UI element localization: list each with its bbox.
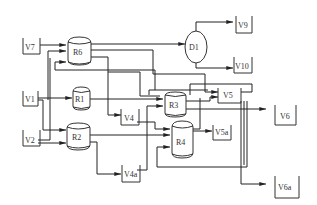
- vessel-v5: V5: [218, 88, 241, 103]
- label-v10: V10: [235, 62, 249, 71]
- reactor-r4: R4: [172, 121, 193, 158]
- label-v9: V9: [238, 21, 248, 30]
- line-v4-r4: [137, 122, 170, 129]
- line-r6-v4: [91, 57, 121, 115]
- line-d1-v10: [196, 63, 233, 68]
- vessel-v7: V7: [23, 38, 40, 54]
- label-v4a: V4a: [124, 170, 138, 179]
- line-r4-v5: [193, 98, 200, 129]
- reactor-r3: R3: [165, 92, 186, 117]
- vessel-v2: V2: [23, 130, 40, 146]
- process-flow-diagram: V7 V1 V2 V4 V4a V5 V5a V6: [0, 0, 317, 205]
- line-v5-v6a: [241, 101, 266, 184]
- label-r3: R3: [169, 101, 178, 110]
- vessel-v1: V1: [23, 91, 38, 106]
- reactor-r1: R1: [73, 87, 90, 110]
- reactor-r6: R6: [68, 37, 91, 65]
- label-v5a: V5a: [215, 128, 229, 137]
- vessel-v4a: V4a: [122, 165, 140, 182]
- vessel-v6: V6: [275, 105, 296, 125]
- label-d1: D1: [189, 43, 199, 52]
- label-v6a: V6a: [278, 183, 292, 192]
- line-r2-v4a: [90, 142, 121, 174]
- label-v5: V5: [223, 91, 233, 100]
- label-r1: R1: [75, 95, 84, 104]
- line-v4-loop-r3: [108, 72, 160, 96]
- reactor-r2: R2: [67, 123, 90, 150]
- line-v1-r2: [38, 100, 66, 130]
- label-v4: V4: [124, 114, 134, 123]
- drum-d1: D1: [185, 31, 207, 63]
- line-v1-r6: [48, 51, 66, 100]
- label-v6: V6: [280, 112, 290, 121]
- line-r3-v5: [186, 97, 218, 101]
- vessel-v9: V9: [236, 16, 252, 33]
- label-v7: V7: [25, 43, 35, 52]
- line-v4a-r3: [137, 106, 163, 170]
- label-r2: R2: [72, 133, 81, 142]
- label-r4: R4: [176, 138, 185, 147]
- label-v2: V2: [25, 136, 35, 145]
- vessel-v5a: V5a: [213, 125, 231, 140]
- vessel-v4: V4: [121, 109, 139, 125]
- line-d1-v9: [196, 22, 233, 32]
- vessels: V7 V1 V2 V4 V4a V5 V5a V6: [23, 16, 299, 198]
- label-v1: V1: [25, 95, 35, 104]
- vessel-v10: V10: [234, 57, 252, 73]
- label-r6: R6: [73, 48, 82, 57]
- vessel-v6a: V6a: [275, 176, 299, 198]
